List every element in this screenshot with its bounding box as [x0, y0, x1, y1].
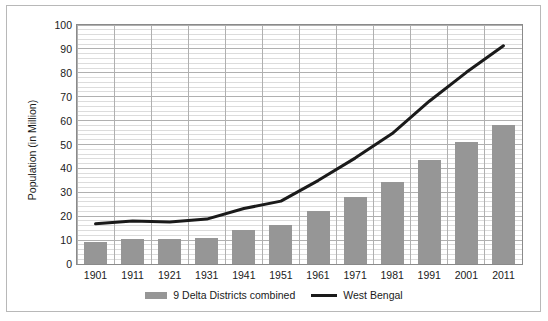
x-tick-2011: 2011 — [492, 269, 515, 281]
y-axis-tick-labels: 0102030405060708090100 — [31, 24, 72, 265]
bar-1921 — [158, 239, 181, 264]
bar-2011 — [492, 125, 515, 264]
x-tick-1901: 1901 — [84, 269, 107, 281]
bar-1951 — [269, 225, 292, 264]
x-axis-tick-labels: 1901191119211931194119511961197119811991… — [76, 269, 523, 285]
x-tick-1951: 1951 — [269, 269, 292, 281]
y-tick-20: 20 — [31, 211, 72, 221]
y-tick-0: 0 — [31, 259, 72, 269]
plot-area — [76, 24, 523, 265]
bar-1961 — [307, 211, 330, 264]
bar-1931 — [195, 238, 218, 264]
bar-1911 — [121, 239, 144, 264]
y-tick-90: 90 — [31, 44, 72, 54]
population-chart: Population (in Million) 0102030405060708… — [0, 0, 548, 321]
bar-1981 — [381, 182, 404, 264]
y-tick-50: 50 — [31, 140, 72, 150]
x-tick-1921: 1921 — [158, 269, 181, 281]
chart-frame: Population (in Million) 0102030405060708… — [6, 5, 541, 312]
legend-item-bar: 9 Delta Districts combined — [145, 289, 295, 301]
bar-1991 — [418, 160, 441, 264]
legend-line-swatch-icon — [311, 294, 337, 297]
legend-label-bar: 9 Delta Districts combined — [173, 289, 295, 301]
y-tick-40: 40 — [31, 163, 72, 173]
bar-1971 — [344, 197, 367, 264]
x-tick-1981: 1981 — [381, 269, 404, 281]
bar-2001 — [455, 142, 478, 264]
x-tick-2001: 2001 — [455, 269, 478, 281]
chart-legend: 9 Delta Districts combined West Bengal — [0, 289, 548, 301]
data-series — [77, 25, 522, 264]
legend-label-line: West Bengal — [343, 289, 402, 301]
y-tick-30: 30 — [31, 187, 72, 197]
x-tick-1961: 1961 — [306, 269, 329, 281]
bar-1901 — [84, 242, 107, 264]
x-tick-1971: 1971 — [343, 269, 366, 281]
x-tick-1991: 1991 — [418, 269, 441, 281]
line-series-west-bengal — [96, 46, 504, 224]
y-tick-100: 100 — [31, 20, 72, 30]
y-tick-10: 10 — [31, 235, 72, 245]
x-tick-1941: 1941 — [232, 269, 255, 281]
legend-item-line: West Bengal — [311, 289, 402, 301]
y-tick-60: 60 — [31, 116, 72, 126]
x-tick-1931: 1931 — [195, 269, 218, 281]
y-tick-70: 70 — [31, 92, 72, 102]
bar-1941 — [232, 230, 255, 264]
legend-bar-swatch-icon — [145, 292, 167, 299]
x-tick-1911: 1911 — [121, 269, 144, 281]
y-tick-80: 80 — [31, 68, 72, 78]
